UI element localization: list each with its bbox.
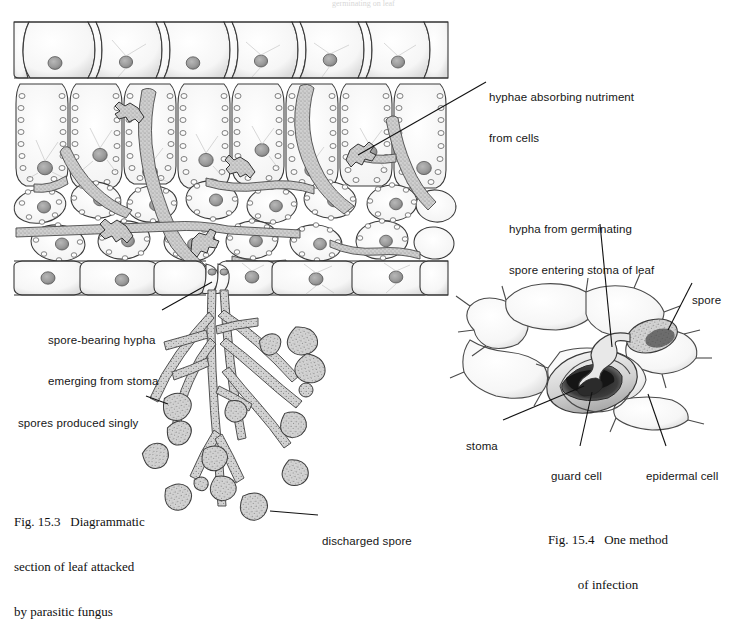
label-line: spore [692,294,721,308]
label-line: stoma [466,440,498,454]
label-line: from cells [489,132,634,146]
stoma-section [202,264,229,294]
label-guard-cell: guard cell [551,443,602,511]
label-line: discharged spore [322,535,412,549]
label-line: epidermal cell [646,470,718,484]
label-line: guard cell [551,470,602,484]
label-line: hypha from germinating [509,223,654,237]
label-spores-produced-singly: spores produced singly [18,390,138,458]
leader-discharged-spore [270,511,318,515]
caption-line: of infection [528,577,688,592]
label-line: spore entering stoma of leaf [509,264,654,278]
label-line: emerging from stoma [48,375,159,389]
label-line: hyphae absorbing nutriment [489,91,634,105]
label-epidermal-cell: epidermal cell [646,443,718,511]
label-line: spores produced singly [18,417,138,431]
caption-line: section of leaf attacked [14,559,145,574]
leader-spore-right [668,283,692,330]
label-hypha-germinating: hypha from germinating spore entering st… [509,196,654,304]
caption-line: Fig. 15.3 Diagrammatic [14,514,145,529]
label-hyphae-absorbing: hyphae absorbing nutriment from cells [489,64,634,172]
lower-epidermis [14,261,448,295]
caption-line: by parasitic fungus [14,604,145,619]
label-spore: spore [692,267,721,335]
label-line: spore-bearing hypha [48,334,159,348]
label-discharged-spore: discharged spore [322,508,412,576]
upper-epidermis [14,22,448,78]
caption-fig-15-3: Fig. 15.3 Diagrammatic section of leaf a… [14,484,145,623]
caption-line: Fig. 15.4 One method [528,532,688,547]
caption-fig-15-4: Fig. 15.4 One method of infection [528,502,688,622]
label-stoma: stoma [466,413,498,481]
